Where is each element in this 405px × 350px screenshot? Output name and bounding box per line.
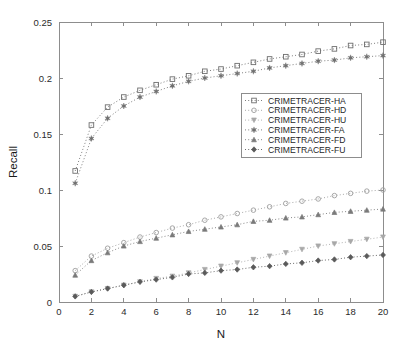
y-tick-label: 0.2 xyxy=(39,73,52,84)
y-tick-label: 0.15 xyxy=(34,129,53,140)
recall-vs-n-chart: 0246810121416182000.050.10.150.20.25NRec… xyxy=(0,0,405,350)
legend-label-crimetracer-hu: CRIMETRACER-HU xyxy=(268,115,346,125)
x-tick-label: 18 xyxy=(345,306,356,317)
legend-label-crimetracer-hd: CRIMETRACER-HD xyxy=(268,105,346,115)
x-tick-label: 0 xyxy=(56,306,61,317)
x-tick-label: 12 xyxy=(248,306,259,317)
legend-label-crimetracer-ha: CRIMETRACER-HA xyxy=(268,96,346,106)
legend: CRIMETRACER-HACRIMETRACER-HDCRIMETRACER-… xyxy=(241,93,361,157)
y-axis-title: Recall xyxy=(7,146,19,178)
legend-label-crimetracer-fd: CRIMETRACER-FD xyxy=(268,135,345,145)
x-tick-label: 16 xyxy=(313,306,324,317)
x-tick-label: 10 xyxy=(216,306,227,317)
y-tick-label: 0.25 xyxy=(34,17,53,28)
y-tick-label: 0.05 xyxy=(34,241,53,252)
x-tick-label: 6 xyxy=(154,306,159,317)
legend-label-crimetracer-fu: CRIMETRACER-FU xyxy=(268,145,345,155)
x-tick-label: 8 xyxy=(186,306,191,317)
x-tick-label: 4 xyxy=(121,306,126,317)
x-tick-label: 2 xyxy=(89,306,94,317)
x-tick-label: 14 xyxy=(281,306,292,317)
legend-label-crimetracer-fa: CRIMETRACER-FA xyxy=(268,125,345,135)
y-tick-label: 0 xyxy=(47,297,52,308)
y-tick-label: 0.1 xyxy=(39,185,52,196)
x-axis-title: N xyxy=(217,328,225,340)
chart-canvas: 0246810121416182000.050.10.150.20.25NRec… xyxy=(0,0,405,350)
x-tick-label: 20 xyxy=(378,306,389,317)
